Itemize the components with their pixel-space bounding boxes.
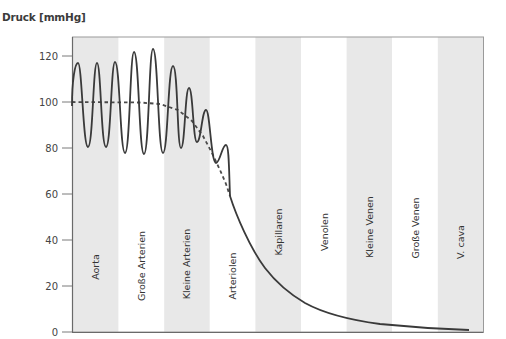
pressure-chart: 120 100 80 60 40 20 0 Aorta Große Arteri… bbox=[0, 0, 506, 339]
label-kapillaren: Kapillaren bbox=[273, 208, 284, 255]
label-venolen: Venolen bbox=[319, 213, 330, 251]
band-venolen bbox=[301, 37, 347, 332]
label-grosse-venen: Große Venen bbox=[410, 197, 421, 258]
y-tick-0: 0 bbox=[52, 327, 58, 338]
y-tick-40: 40 bbox=[45, 235, 58, 246]
y-axis: 120 100 80 60 40 20 0 bbox=[39, 37, 73, 338]
band-kleine-venen bbox=[347, 37, 393, 332]
label-v-cava: V. cava bbox=[455, 225, 466, 259]
band-v-cava bbox=[438, 37, 484, 332]
label-kleine-arterien: Kleine Arterien bbox=[181, 229, 192, 300]
y-tick-20: 20 bbox=[45, 281, 58, 292]
label-arteriolen: Arteriolen bbox=[227, 253, 238, 300]
y-tick-60: 60 bbox=[45, 189, 58, 200]
band-grosse-venen bbox=[392, 37, 438, 332]
label-kleine-venen: Kleine Venen bbox=[364, 196, 375, 258]
y-tick-120: 120 bbox=[39, 51, 58, 62]
band-kapillaren bbox=[255, 37, 301, 332]
y-tick-100: 100 bbox=[39, 97, 58, 108]
y-tick-80: 80 bbox=[45, 143, 58, 154]
label-grosse-arterien: Große Arterien bbox=[136, 231, 147, 301]
vessel-bands bbox=[73, 37, 483, 332]
label-aorta: Aorta bbox=[90, 254, 101, 280]
